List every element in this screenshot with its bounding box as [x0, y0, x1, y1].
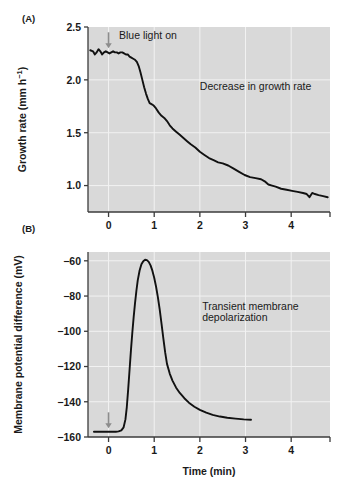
panel-b-y-axis-title: Membrane potential difference (mV) [12, 255, 24, 434]
panel-b-x-tick-label: 1 [151, 444, 157, 456]
panel-a-x-tick-label: 1 [151, 219, 157, 231]
panel-a-x-tick-label: 3 [243, 219, 249, 231]
panel-a-y-tick-label: 2.0 [66, 74, 81, 86]
panel-a-y-tick-label: 1.0 [66, 179, 81, 191]
panel-b-y-axis-title-text: Membrane potential difference (mV) [12, 255, 24, 434]
panel-b-x-axis-title: Time (min) [183, 465, 236, 477]
panel-b-y-tick-label: −80 [63, 290, 81, 302]
panel-b-y-tick-label: −100 [57, 325, 81, 337]
panel-b-y-tick-label: −120 [57, 360, 81, 372]
panel-b: −160−140−120−100−80−6001234 [57, 252, 330, 456]
panel-b-y-tick-label: −160 [57, 431, 81, 443]
annotation-decrease-in-growth-rate: Decrease in growth rate [200, 80, 312, 92]
annotation-blue-light-on: Blue light on [119, 29, 177, 41]
panel-a: 1.01.52.02.501234 [66, 21, 330, 231]
panel-a-y-tick-label: 1.5 [66, 127, 81, 139]
figure-container: 1.01.52.02.501234−160−140−120−100−80−600… [0, 0, 346, 482]
panel-a-x-tick-label: 0 [106, 219, 112, 231]
annotation-transient-membrane-depolarization-line2: depolarization [202, 311, 268, 323]
two-panel-figure: 1.01.52.02.501234−160−140−120−100−80−600… [0, 0, 346, 482]
panel-a-y-axis-title: Growth rate (mm h−1) [15, 67, 29, 172]
panel-b-x-tick-label: 3 [243, 444, 249, 456]
panel-a-x-tick-label: 4 [288, 219, 294, 231]
panel-a-label: (A) [22, 13, 35, 24]
panel-b-y-tick-label: −60 [63, 255, 81, 267]
panel-a-y-axis-title-main: Growth rate (mm h [16, 79, 28, 172]
panel-b-y-tick-label: −140 [57, 396, 81, 408]
panel-a-plot-background [88, 27, 330, 212]
panel-b-x-tick-label: 0 [106, 444, 112, 456]
panel-a-y-tick-label: 2.5 [66, 21, 81, 33]
panel-b-x-tick-label: 2 [197, 444, 203, 456]
panel-a-y-axis-title-text: Growth rate (mm h−1) [15, 67, 29, 172]
panel-a-y-axis-title-sup: −1 [15, 70, 24, 79]
panel-b-x-tick-label: 4 [288, 444, 294, 456]
panel-b-label: (B) [22, 223, 35, 234]
panel-a-y-axis-title-tail: ) [16, 67, 28, 71]
panel-b-plot-background [88, 252, 330, 437]
panel-a-x-tick-label: 2 [197, 219, 203, 231]
